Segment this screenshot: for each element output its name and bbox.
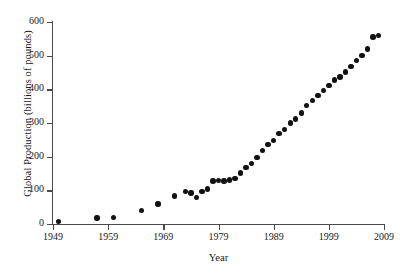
y-tick: 400 <box>47 89 52 90</box>
data-point <box>172 193 177 198</box>
data-point <box>271 138 276 143</box>
x-tick <box>384 225 385 230</box>
data-point <box>315 93 320 98</box>
y-tick: 500 <box>47 56 52 57</box>
data-point <box>238 170 243 175</box>
chart-figure: Global Production (billions of pounds) 0… <box>0 0 404 276</box>
data-point <box>376 33 381 38</box>
data-point <box>56 219 61 224</box>
y-tick: 100 <box>47 190 52 191</box>
data-point <box>194 195 199 200</box>
data-point <box>260 148 265 153</box>
x-tick-label: 2009 <box>374 231 394 243</box>
x-tick <box>274 225 275 230</box>
x-axis-title: Year <box>53 252 384 263</box>
x-tick-label: 1969 <box>153 231 173 243</box>
data-point <box>370 34 375 39</box>
x-tick-label: 1959 <box>98 231 118 243</box>
data-point <box>254 155 259 160</box>
data-point <box>293 116 298 121</box>
y-tick-label: 500 <box>29 49 44 61</box>
x-tick-label: 1989 <box>264 231 284 243</box>
y-tick-label: 100 <box>29 183 44 195</box>
data-point <box>348 64 353 69</box>
data-point <box>276 131 281 136</box>
data-point <box>365 46 370 51</box>
y-tick-label: 600 <box>29 15 44 27</box>
y-tick-label: 0 <box>39 217 44 229</box>
data-point <box>188 190 193 195</box>
x-tick-label: 1949 <box>43 231 63 243</box>
data-point <box>265 142 270 147</box>
data-point <box>111 215 116 220</box>
y-tick: 0 <box>47 224 52 225</box>
data-point <box>249 161 254 166</box>
data-point <box>139 208 144 213</box>
y-tick: 200 <box>47 157 52 158</box>
data-point <box>359 53 364 58</box>
x-tick <box>53 225 54 230</box>
data-point <box>310 98 315 103</box>
data-point <box>94 215 99 220</box>
y-tick-label: 300 <box>29 116 44 128</box>
data-point <box>304 103 309 108</box>
x-tick <box>108 225 109 230</box>
data-point <box>232 176 237 181</box>
data-point <box>210 178 215 183</box>
data-point <box>354 58 359 63</box>
data-point <box>326 83 331 88</box>
data-point <box>199 189 204 194</box>
data-point <box>343 69 348 74</box>
y-tick-label: 400 <box>29 82 44 94</box>
x-tick <box>219 225 220 230</box>
plot-area <box>53 22 384 224</box>
x-tick <box>329 225 330 230</box>
y-tick-label: 200 <box>29 150 44 162</box>
data-point <box>282 127 287 132</box>
data-point <box>243 165 248 170</box>
data-point <box>321 88 326 93</box>
x-tick <box>163 225 164 230</box>
data-point <box>299 110 304 115</box>
data-point <box>155 201 160 206</box>
x-tick-label: 1999 <box>319 231 339 243</box>
y-tick: 600 <box>47 22 52 23</box>
data-point <box>221 178 226 183</box>
y-tick: 300 <box>47 123 52 124</box>
data-point <box>205 186 210 191</box>
data-point <box>337 74 342 79</box>
data-point <box>288 120 293 125</box>
x-tick-label: 1979 <box>209 231 229 243</box>
